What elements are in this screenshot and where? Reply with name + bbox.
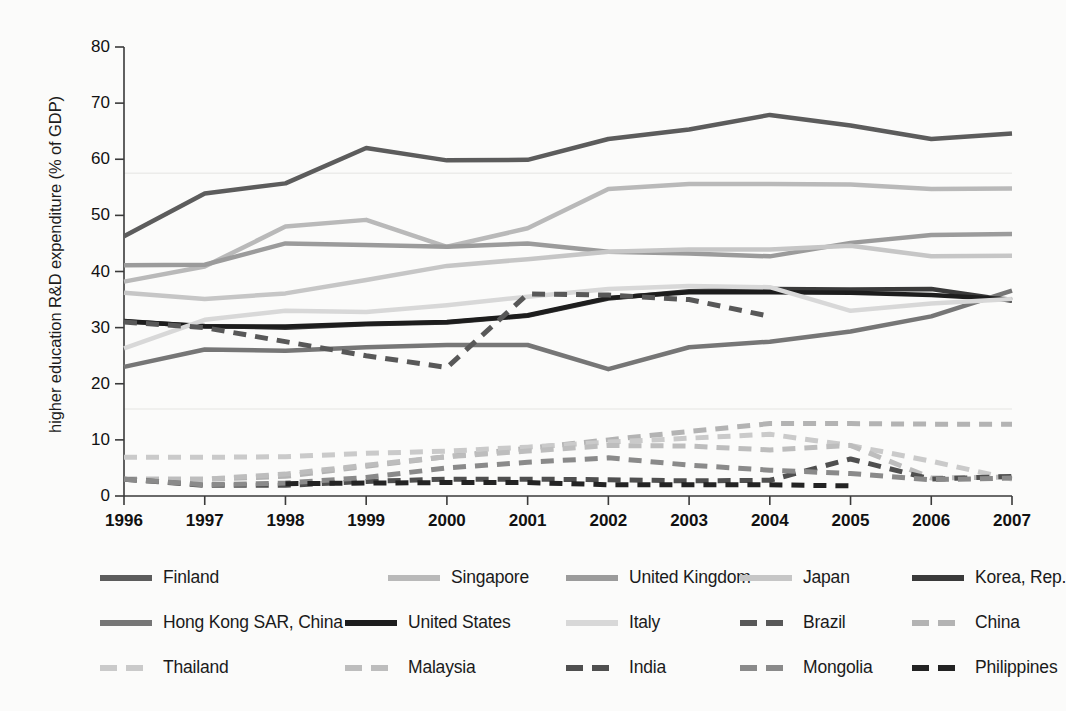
legend-item[interactable]: Philippines: [912, 650, 1057, 686]
series-line: [124, 291, 1012, 370]
legend-label: Hong Kong SAR, China: [163, 614, 343, 632]
legend-swatch-solid-icon: [740, 575, 792, 581]
legend-item[interactable]: Italy: [566, 605, 660, 641]
legend-swatch-dashed-icon: [566, 665, 618, 671]
legend-swatch-solid-icon: [912, 575, 964, 581]
series-singapore: [124, 184, 1012, 282]
legend-row: ThailandMalaysiaIndiaMongoliaPhilippines: [0, 650, 1066, 686]
legend-label: Thailand: [163, 659, 229, 677]
legend-swatch-solid-icon: [100, 575, 152, 581]
legend-swatch-solid-icon: [345, 620, 397, 626]
legend-item[interactable]: Brazil: [740, 605, 846, 641]
legend-swatch-dashed-icon: [740, 620, 792, 626]
legend-swatch-solid-icon: [566, 575, 618, 581]
legend-label: Malaysia: [408, 659, 475, 677]
legend-item[interactable]: Japan: [740, 560, 850, 596]
legend-swatch-solid-icon: [388, 575, 440, 581]
legend-row: Hong Kong SAR, ChinaUnited StatesItalyBr…: [0, 605, 1066, 641]
legend-row: FinlandSingaporeUnited KingdomJapanKorea…: [0, 560, 1066, 596]
legend-label: Finland: [163, 569, 219, 587]
legend-swatch-dashed-icon: [740, 665, 792, 671]
series-line: [124, 115, 1012, 236]
legend-item[interactable]: China: [912, 605, 1020, 641]
legend-item[interactable]: Korea, Rep.: [912, 560, 1066, 596]
series-line: [124, 184, 1012, 282]
legend-label: Korea, Rep.: [975, 569, 1066, 587]
legend-label: Philippines: [975, 659, 1057, 677]
legend-item[interactable]: United Kingdom: [566, 560, 751, 596]
legend-item[interactable]: Finland: [100, 560, 219, 596]
legend-label: Mongolia: [803, 659, 872, 677]
chart-area: higher education R&D expenditure (% of G…: [0, 0, 1066, 560]
legend-label: Japan: [803, 569, 850, 587]
legend-swatch-dashed-icon: [912, 665, 964, 671]
legend-label: Singapore: [451, 569, 529, 587]
series-hong-kong-sar-china: [124, 291, 1012, 370]
series-finland: [124, 115, 1012, 236]
legend-item[interactable]: Thailand: [100, 650, 229, 686]
legend-swatch-solid-icon: [566, 620, 618, 626]
legend-item[interactable]: Malaysia: [345, 650, 475, 686]
legend-label: United States: [408, 614, 510, 632]
legend-swatch-dashed-icon: [345, 665, 397, 671]
legend-label: India: [629, 659, 666, 677]
legend-swatch-solid-icon: [100, 620, 152, 626]
legend-item[interactable]: United States: [345, 605, 510, 641]
legend-swatch-dashed-icon: [912, 620, 964, 626]
legend-item[interactable]: Singapore: [388, 560, 529, 596]
figure: higher education R&D expenditure (% of G…: [0, 0, 1066, 711]
legend-item[interactable]: Hong Kong SAR, China: [100, 605, 343, 641]
line-plot: [0, 0, 1066, 560]
legend-item[interactable]: Mongolia: [740, 650, 872, 686]
legend-item[interactable]: India: [566, 650, 666, 686]
legend-label: China: [975, 614, 1020, 632]
chart-legend: FinlandSingaporeUnited KingdomJapanKorea…: [0, 556, 1066, 711]
legend-label: United Kingdom: [629, 569, 751, 587]
legend-label: Brazil: [803, 614, 846, 632]
legend-label: Italy: [629, 614, 660, 632]
legend-swatch-dashed-icon: [100, 665, 152, 671]
